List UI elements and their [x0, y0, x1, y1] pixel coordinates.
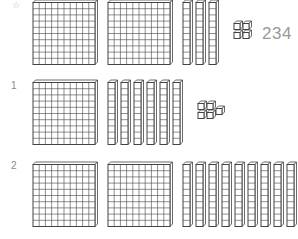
- tens-rod: [287, 162, 298, 228]
- tens-rod: [108, 80, 119, 146]
- tens-rod: [196, 162, 207, 228]
- star-icon: ☆: [12, 0, 20, 10]
- hundreds-flat: [33, 80, 99, 146]
- ones-cube: [243, 30, 253, 40]
- problem-1-number: 1: [11, 80, 17, 91]
- tens-rod: [222, 162, 233, 228]
- example-answer: 234: [262, 24, 292, 44]
- hundreds-flat: [33, 0, 99, 66]
- tens-rod: [261, 162, 272, 228]
- tens-rod: [183, 0, 194, 66]
- tens-rod: [209, 0, 220, 66]
- tens-rod: [173, 80, 184, 146]
- tens-rod: [196, 0, 207, 66]
- hundreds-flat: [108, 0, 174, 66]
- tens-rod: [183, 162, 194, 228]
- tens-rod: [274, 162, 285, 228]
- hundreds-flat: [33, 162, 99, 228]
- tens-rod: [248, 162, 259, 228]
- tens-rod: [160, 80, 171, 146]
- hundreds-flat: [108, 162, 174, 228]
- tens-rod: [121, 80, 132, 146]
- tens-rod: [147, 80, 158, 146]
- ones-cube: [216, 106, 226, 116]
- tens-rod: [134, 80, 145, 146]
- tens-rod: [209, 162, 220, 228]
- problem-2-number: 2: [11, 160, 17, 171]
- tens-rod: [235, 162, 246, 228]
